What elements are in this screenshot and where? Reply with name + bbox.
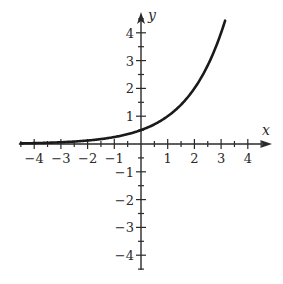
y-tick-label: −4 [115, 248, 134, 263]
x-tick-label: −3 [51, 151, 70, 166]
y-tick-label: 4 [126, 26, 134, 41]
y-tick-label: −1 [115, 165, 134, 180]
y-tick-label: −3 [115, 220, 134, 235]
coordinate-plane: −4−3−2−11234−4−3−2−11234 x y [0, 0, 283, 284]
x-tick-label: −4 [25, 151, 44, 166]
x-axis-label: x [262, 122, 270, 138]
x-tick-label: −2 [78, 151, 97, 166]
x-tick-label: −1 [105, 151, 124, 166]
x-tick-label: 2 [190, 151, 198, 166]
x-tick-label: 1 [164, 151, 172, 166]
x-tick-label: 4 [244, 151, 252, 166]
y-tick-label: −2 [115, 193, 134, 208]
y-tick-label: 3 [126, 54, 134, 69]
y-tick-label: 2 [126, 81, 134, 96]
y-tick-label: 1 [126, 109, 134, 124]
x-tick-label: 3 [217, 151, 225, 166]
exponential-curve [21, 21, 225, 144]
exponential-graph: −4−3−2−11234−4−3−2−11234 x y [0, 0, 283, 284]
y-axis-label: y [147, 7, 157, 23]
